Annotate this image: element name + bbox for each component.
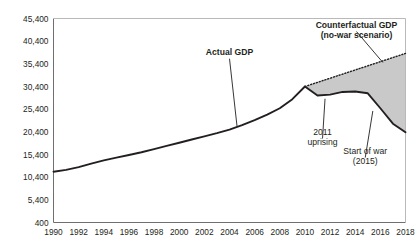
y-tick-label: 15,400: [23, 150, 49, 160]
y-tick-label: 25,400: [23, 104, 49, 114]
y-tick-label: 30,400: [23, 82, 49, 92]
x-tick-label: 1998: [145, 227, 164, 237]
y-tick-label: 35,400: [23, 59, 49, 69]
y-tick-label: 45,400: [23, 14, 49, 24]
x-tick-label: 1990: [44, 227, 63, 237]
x-tick-label: 2018: [396, 227, 415, 237]
x-tick-label: 2014: [346, 227, 365, 237]
y-tick-label: 5,400: [28, 195, 49, 205]
x-tick-label: 2016: [371, 227, 390, 237]
x-tick-label: 1992: [69, 227, 88, 237]
annotation-uprising-l2: uprising: [307, 137, 337, 147]
gdp-counterfactual-chart: 4005,40010,40015,40020,40025,40030,40035…: [0, 0, 419, 251]
x-tick-label: 2012: [321, 227, 340, 237]
x-tick-label: 2008: [271, 227, 290, 237]
annotation-startwar-l2: (2015): [353, 156, 378, 166]
annotation-counterfactual-l1: Counterfactual GDP: [316, 20, 398, 30]
chart-canvas: 4005,40010,40015,40020,40025,40030,40035…: [0, 0, 419, 251]
x-axis-tick-labels: 1990199219941996199820002002200420062008…: [44, 227, 415, 237]
y-axis-tick-labels: 4005,40010,40015,40020,40025,40030,40035…: [23, 14, 49, 228]
annotation-uprising-l1: 2011: [313, 127, 332, 137]
x-tick-label: 2010: [296, 227, 315, 237]
annotation-counterfactual-l2: (no-war scenario): [321, 30, 393, 40]
x-tick-label: 2000: [170, 227, 189, 237]
y-tick-label: 10,400: [23, 172, 49, 182]
x-tick-label: 2004: [220, 227, 239, 237]
x-tick-label: 1996: [120, 227, 139, 237]
x-tick-label: 2006: [245, 227, 264, 237]
y-tick-label: 20,400: [23, 127, 49, 137]
y-tick-label: 40,400: [23, 36, 49, 46]
x-tick-label: 2002: [195, 227, 214, 237]
annotation-startwar-l1: Start of war: [343, 146, 387, 156]
x-tick-label: 1994: [95, 227, 114, 237]
annotation-actual-gdp: Actual GDP: [206, 47, 254, 57]
